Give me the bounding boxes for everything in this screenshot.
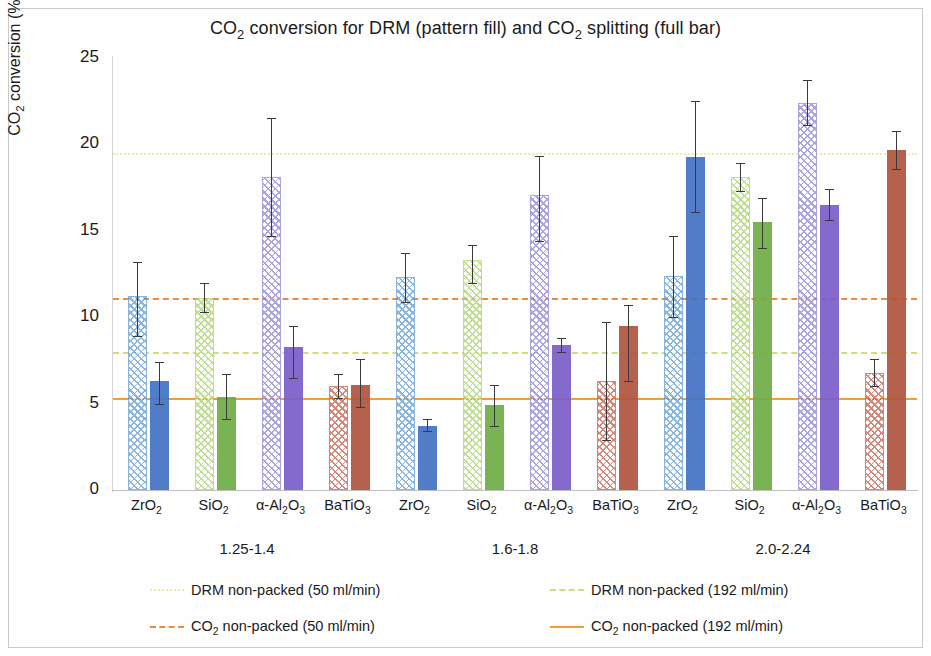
error-bar bbox=[829, 189, 830, 220]
bar-drm bbox=[865, 58, 884, 490]
error-bar-cap-top bbox=[870, 359, 879, 360]
error-bar-cap-bottom bbox=[267, 236, 276, 237]
error-bar bbox=[472, 245, 473, 283]
error-bar-cap-bottom bbox=[758, 248, 767, 249]
bar-co2-splitting bbox=[686, 58, 705, 490]
y-tick-label: 25 bbox=[55, 47, 99, 67]
error-bar-cap-top bbox=[133, 262, 142, 263]
error-bar-cap-top bbox=[490, 385, 499, 386]
x-tick-label: α-Al2O3 bbox=[783, 497, 850, 516]
legend-item-drm-50[interactable]: DRM non-packed (50 ml/min) bbox=[150, 582, 380, 598]
error-bar bbox=[293, 326, 294, 378]
bar-co2-splitting bbox=[485, 58, 504, 490]
bar-rect bbox=[329, 386, 348, 490]
error-bar-cap-top bbox=[222, 374, 231, 375]
y-axis-label-text: CO2 conversion (%) bbox=[6, 0, 23, 136]
bar-rect bbox=[731, 177, 750, 490]
bar-co2-splitting bbox=[418, 58, 437, 490]
error-bar-cap-top bbox=[803, 80, 812, 81]
legend-item-co2-50[interactable]: CO2 non-packed (50 ml/min) bbox=[150, 618, 375, 637]
bar-rect bbox=[820, 205, 839, 490]
error-bar-cap-top bbox=[736, 163, 745, 164]
bar-drm bbox=[798, 58, 817, 490]
bar-drm bbox=[530, 58, 549, 490]
error-bar bbox=[204, 283, 205, 312]
error-bar-cap-top bbox=[155, 362, 164, 363]
x-tick-label: SiO2 bbox=[448, 497, 515, 516]
bar-co2-splitting bbox=[284, 58, 303, 490]
error-bar bbox=[137, 262, 138, 336]
error-bar bbox=[159, 362, 160, 403]
bar-drm bbox=[597, 58, 616, 490]
error-bar-cap-bottom bbox=[736, 191, 745, 192]
legend-item-co2-192[interactable]: CO2 non-packed (192 ml/min) bbox=[550, 618, 783, 637]
error-bar-cap-top bbox=[892, 131, 901, 132]
plot-area bbox=[113, 58, 917, 490]
error-bar bbox=[226, 374, 227, 419]
error-bar bbox=[628, 305, 629, 381]
error-bar-cap-bottom bbox=[803, 125, 812, 126]
error-bar-cap-bottom bbox=[557, 352, 566, 353]
error-bar-cap-top bbox=[691, 101, 700, 102]
error-bar bbox=[740, 163, 741, 191]
error-bar bbox=[762, 198, 763, 248]
bar-co2-splitting bbox=[753, 58, 772, 490]
bar-rect bbox=[865, 373, 884, 491]
error-bar-cap-top bbox=[200, 283, 209, 284]
error-bar bbox=[561, 338, 562, 352]
bar-drm bbox=[195, 58, 214, 490]
y-tick-label: 0 bbox=[55, 479, 99, 499]
error-bar-cap-top bbox=[669, 236, 678, 237]
error-bar-cap-bottom bbox=[423, 431, 432, 432]
legend-marker-co2-192 bbox=[550, 626, 584, 628]
bar-rect bbox=[418, 426, 437, 490]
error-bar-cap-top bbox=[356, 359, 365, 360]
error-bar-cap-bottom bbox=[200, 312, 209, 313]
legend-label: CO2 non-packed (50 ml/min) bbox=[191, 618, 375, 637]
error-bar bbox=[360, 359, 361, 407]
bar-rect bbox=[552, 345, 571, 490]
y-axis-label: CO2 conversion (%) bbox=[6, 0, 26, 180]
error-bar-cap-top bbox=[267, 118, 276, 119]
error-bar-cap-bottom bbox=[155, 404, 164, 405]
legend-marker-co2-50 bbox=[150, 626, 184, 628]
error-bar bbox=[874, 359, 875, 387]
error-bar-cap-bottom bbox=[535, 241, 544, 242]
bar-drm bbox=[664, 58, 683, 490]
bar-co2-splitting bbox=[217, 58, 236, 490]
error-bar-cap-top bbox=[289, 326, 298, 327]
error-bar-cap-bottom bbox=[691, 212, 700, 213]
chart-title: CO2 conversion for DRM (pattern fill) an… bbox=[0, 18, 931, 42]
bar-rect bbox=[798, 103, 817, 490]
bar-drm bbox=[463, 58, 482, 490]
group-label: 2.0-2.24 bbox=[649, 540, 917, 557]
legend-item-drm-192[interactable]: DRM non-packed (192 ml/min) bbox=[550, 582, 788, 598]
group-label: 1.25-1.4 bbox=[113, 540, 381, 557]
bar-rect bbox=[195, 298, 214, 490]
error-bar-cap-bottom bbox=[602, 440, 611, 441]
error-bar-cap-bottom bbox=[468, 283, 477, 284]
error-bar-cap-top bbox=[468, 245, 477, 246]
error-bar-cap-bottom bbox=[669, 317, 678, 318]
error-bar bbox=[271, 118, 272, 236]
error-bar bbox=[606, 322, 607, 440]
error-bar bbox=[427, 419, 428, 431]
x-tick-label: SiO2 bbox=[180, 497, 247, 516]
legend-label: DRM non-packed (50 ml/min) bbox=[191, 582, 380, 598]
error-bar-cap-bottom bbox=[825, 220, 834, 221]
error-bar-cap-top bbox=[535, 156, 544, 157]
x-tick-label: BaTiO3 bbox=[314, 497, 381, 516]
chart-title-text: CO2 conversion for DRM (pattern fill) an… bbox=[210, 18, 721, 38]
x-tick-label: SiO2 bbox=[716, 497, 783, 516]
error-bar-cap-bottom bbox=[334, 398, 343, 399]
bar-rect bbox=[753, 222, 772, 490]
error-bar-cap-top bbox=[334, 374, 343, 375]
error-bar-cap-top bbox=[557, 338, 566, 339]
error-bar bbox=[494, 385, 495, 426]
bar-co2-splitting bbox=[150, 58, 169, 490]
bar-drm bbox=[262, 58, 281, 490]
bar-co2-splitting bbox=[887, 58, 906, 490]
y-tick-label: 20 bbox=[55, 133, 99, 153]
error-bar bbox=[539, 156, 540, 241]
y-tick-label: 10 bbox=[55, 306, 99, 326]
